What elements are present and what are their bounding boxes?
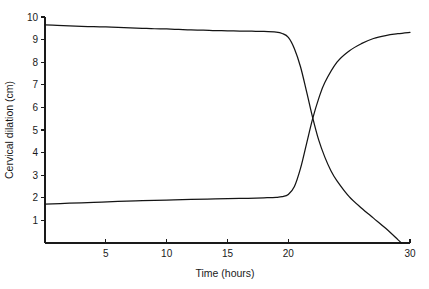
y-tick-label: 9 <box>32 34 38 45</box>
x-tick-label: 15 <box>222 248 234 259</box>
y-tick-label: 5 <box>32 125 38 136</box>
chart-plot-area: 12345678910 510152030 Time (hours) Cervi… <box>0 0 429 289</box>
descending-curve <box>45 25 401 243</box>
y-tick-label: 10 <box>27 12 39 23</box>
y-tick-label: 2 <box>32 192 38 203</box>
y-tick-label: 6 <box>32 102 38 113</box>
chart-figure: 12345678910 510152030 Time (hours) Cervi… <box>0 0 429 289</box>
ascending-curve <box>45 32 410 204</box>
y-axis-title: Cervical dilation (cm) <box>3 81 15 179</box>
data-curves <box>45 25 410 243</box>
y-tick-label: 1 <box>32 215 38 226</box>
x-tick-label: 30 <box>404 248 416 259</box>
y-tick-label: 8 <box>32 57 38 68</box>
x-axis-ticks: 510152030 <box>103 239 416 259</box>
x-tick-label: 10 <box>161 248 173 259</box>
y-tick-label: 4 <box>32 147 38 158</box>
x-tick-label: 20 <box>283 248 295 259</box>
y-tick-label: 3 <box>32 170 38 181</box>
y-axis-ticks: 12345678910 <box>27 12 45 226</box>
y-tick-label: 7 <box>32 79 38 90</box>
x-axis-title: Time (hours) <box>195 267 254 279</box>
x-tick-label: 5 <box>103 248 109 259</box>
